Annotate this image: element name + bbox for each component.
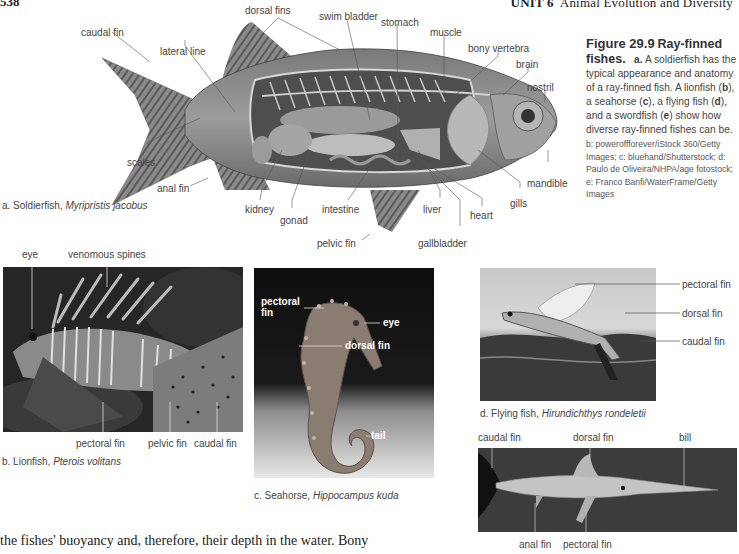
label-mandible: mandible — [527, 178, 568, 189]
label-seahorse-dorsal-fin: dorsal fin — [345, 340, 390, 351]
body-text-line: the fishes' buoyancy and, therefore, the… — [0, 533, 368, 549]
swordfish-photo — [478, 448, 737, 532]
label-bony-vertebra: bony vertebra — [468, 43, 529, 54]
caption-panel-c: c. Seahorse, Hippocampus kuda — [254, 490, 399, 501]
label-gallbladder: gallbladder — [418, 238, 467, 249]
label-swordfish-pectoral-fin: pectoral fin — [563, 539, 612, 550]
label-seahorse-fin: fin — [261, 307, 273, 318]
label-seahorse-tail: tail — [371, 430, 385, 441]
label-flying-fish-dorsal-fin: dorsal fin — [682, 308, 723, 319]
label-seahorse-pectoral: pectoral — [261, 296, 300, 307]
label-lionfish-pelvic-fin: pelvic fin — [148, 438, 187, 449]
lionfish-image — [3, 267, 243, 432]
label-dorsal-fins: dorsal fins — [245, 5, 291, 16]
label-gills: gills — [510, 198, 527, 209]
swordfish-image — [478, 448, 737, 532]
label-scales: scales — [127, 157, 155, 168]
label-flying-fish-caudal-fin: caudal fin — [682, 336, 725, 347]
flying-fish-leader-lines — [560, 270, 680, 360]
label-lionfish-eye: eye — [22, 249, 38, 260]
lionfish-photo — [3, 267, 243, 432]
label-lateral-line: lateral line — [160, 46, 206, 57]
label-swordfish-caudal-fin: caudal fin — [478, 432, 521, 443]
label-heart: heart — [470, 210, 493, 221]
figure-caption: Figure 29.9 Ray-finned fishes. a. A sold… — [586, 37, 738, 201]
label-gonad: gonad — [280, 215, 308, 226]
label-swim-bladder: swim bladder — [319, 11, 378, 22]
caption-panel-a: a. Soldierfish, Myripristis jacobus — [2, 200, 148, 211]
label-swordfish-dorsal-fin: dorsal fin — [573, 432, 614, 443]
label-seahorse-eye: eye — [383, 317, 400, 328]
label-intestine: intestine — [322, 204, 359, 215]
label-nostril: nostril — [527, 82, 554, 93]
label-liver: liver — [423, 204, 441, 215]
figure-number: Figure 29.9 — [586, 36, 655, 51]
label-muscle: muscle — [430, 27, 462, 38]
soldierfish-illustration: caudal fin dorsal fins lateral line swim… — [0, 0, 590, 250]
label-pelvic-fin: pelvic fin — [317, 238, 356, 249]
label-brain: brain — [516, 59, 538, 70]
label-caudal-fin: caudal fin — [81, 27, 124, 38]
caption-panel-d: d. Flying fish, Hirundichthys rondeletii — [480, 408, 646, 419]
label-kidney: kidney — [245, 204, 274, 215]
seahorse-photo: pectoral fin eye dorsal fin tail — [254, 268, 434, 478]
label-stomach: stomach — [381, 17, 419, 28]
label-anal-fin: anal fin — [157, 183, 189, 194]
caption-panel-b: b. Lionfish, Pterois volitans — [2, 456, 121, 467]
label-swordfish-bill: bill — [679, 432, 691, 443]
label-flying-fish-pectoral-fin: pectoral fin — [682, 279, 731, 290]
label-lionfish-pectoral-fin: pectoral fin — [76, 438, 125, 449]
photo-credits: b: poweroffforever/iStock 360/Getty Imag… — [586, 138, 738, 201]
label-lionfish-caudal-fin: caudal fin — [194, 438, 237, 449]
label-venomous-spines: venomous spines — [68, 249, 146, 260]
label-swordfish-anal-fin: anal fin — [519, 539, 551, 550]
